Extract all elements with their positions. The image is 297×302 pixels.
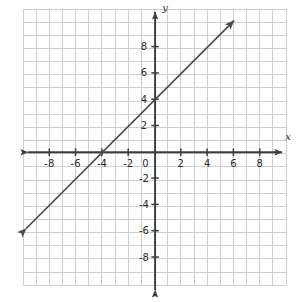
x-tick-label: -4 [97,158,107,169]
y-tick-label: 8 [141,41,147,52]
y-tick-label: 6 [141,67,147,78]
y-tick-label: -8 [139,252,149,263]
y-axis-label: y [161,2,168,13]
x-tick-label: 2 [178,158,184,169]
y-tick-label: -4 [139,199,149,210]
y-tick-label: 2 [141,120,147,131]
origin-label: 0 [142,158,148,169]
coordinate-plane-graph: -8 -6 -4 -2 0 2 4 6 8 8 6 4 2 -2 -4 -6 -… [0,0,297,302]
x-tick-label: -8 [44,158,54,169]
x-tick-label: -2 [123,158,133,169]
x-axis-label: x [285,131,291,142]
x-tick-label: 4 [204,158,210,169]
x-tick-label: 6 [230,158,236,169]
y-tick-label: -2 [139,173,149,184]
y-tick-label: 4 [141,94,147,105]
x-tick-label: -6 [71,158,81,169]
x-tick-label: 8 [257,158,263,169]
y-tick-label: -6 [139,225,149,236]
